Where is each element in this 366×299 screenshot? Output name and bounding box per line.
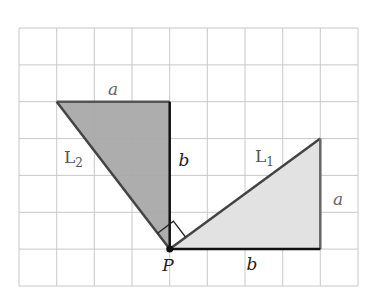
label-L2-name: L2	[64, 147, 83, 170]
label-L2-vertical-b: b	[179, 150, 190, 170]
label-L2-top-a: a	[108, 79, 118, 99]
diagram-canvas: a b L2 L1 a b P	[0, 0, 366, 299]
label-L1-name: L1	[255, 146, 274, 169]
point-P-dot	[166, 246, 173, 253]
label-L1-vertical-a: a	[333, 189, 343, 209]
label-L1-bottom-b: b	[247, 254, 258, 274]
label-point-P: P	[161, 255, 174, 275]
